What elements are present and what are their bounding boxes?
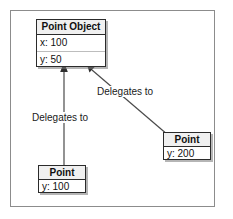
object-box-title: Point xyxy=(39,166,85,180)
object-field-y: y: 50 xyxy=(37,51,105,67)
object-box-title: Point xyxy=(164,133,210,147)
connector-layer xyxy=(0,0,233,219)
diagram-canvas: Point Object x: 100 y: 50 Point y: 100 P… xyxy=(0,0,233,219)
object-field-y: y: 200 xyxy=(164,147,210,160)
connector-line-right xyxy=(92,70,168,135)
object-field-y: y: 100 xyxy=(39,180,85,193)
object-box-point-object[interactable]: Point Object x: 100 y: 50 xyxy=(36,19,106,67)
edge-label-delegates-left: Delegates to xyxy=(30,112,90,123)
object-box-title: Point Object xyxy=(37,20,105,35)
object-box-point-right[interactable]: Point y: 200 xyxy=(163,132,211,160)
object-box-point-left[interactable]: Point y: 100 xyxy=(38,165,86,193)
object-field-x: x: 100 xyxy=(37,35,105,51)
edge-label-delegates-right: Delegates to xyxy=(95,86,155,97)
